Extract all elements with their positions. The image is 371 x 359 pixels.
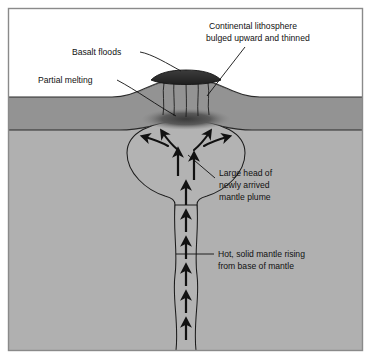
label-hot-mantle-line1: Hot, solid mantle rising [218, 249, 305, 259]
label-plume-head-line3: mantle plume [219, 192, 271, 202]
label-basalt-floods: Basalt floods [72, 47, 121, 57]
label-plume-head-line2: newly arrived [219, 180, 270, 190]
label-continental-lithosphere-line2: bulged upward and thinned [206, 33, 310, 43]
label-continental-lithosphere-line1: Continental lithosphere [209, 21, 297, 31]
geology-cross-section: Basalt floods Partial melting Continenta… [0, 0, 371, 359]
label-partial-melting: Partial melting [38, 75, 93, 85]
diagram-figure: Basalt floods Partial melting Continenta… [0, 0, 371, 359]
label-plume-head-line1: Large head of [219, 168, 273, 178]
label-hot-mantle-line2: from base of mantle [218, 261, 294, 271]
